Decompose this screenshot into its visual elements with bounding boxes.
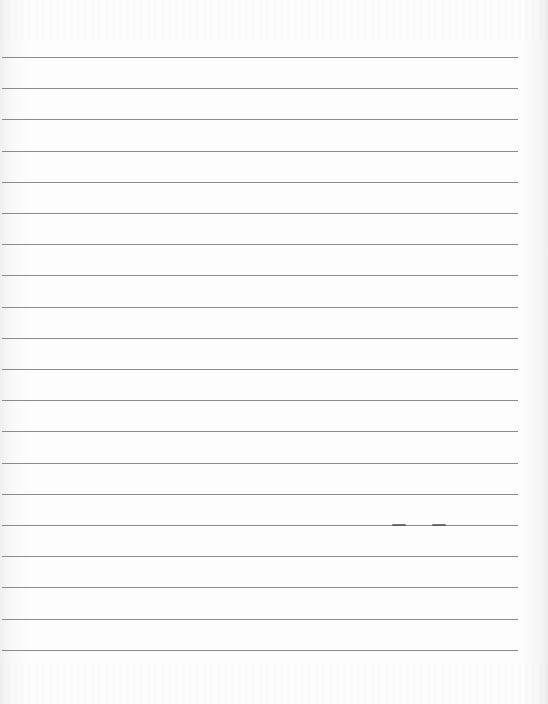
ruled-line — [2, 400, 518, 401]
ruled-line — [2, 182, 518, 183]
lined-paper — [0, 0, 548, 704]
ruled-line — [2, 307, 518, 308]
ruled-line — [2, 650, 518, 651]
ruled-line — [2, 57, 518, 58]
ruled-line — [2, 275, 518, 276]
ruled-line — [2, 556, 518, 557]
ruled-line — [2, 213, 518, 214]
bleed-through-top — [0, 0, 548, 40]
ruled-line — [2, 587, 518, 588]
ruled-line — [2, 151, 518, 152]
ruled-line — [2, 244, 518, 245]
ruled-line — [2, 431, 518, 432]
ink-smudge-right — [432, 524, 446, 526]
ruled-line — [2, 494, 518, 495]
ruled-line — [2, 338, 518, 339]
ruled-line — [2, 619, 518, 620]
ruled-line — [2, 369, 518, 370]
bleed-through-bottom — [0, 664, 548, 704]
ink-smudge-left — [392, 524, 406, 526]
ruled-line — [2, 119, 518, 120]
ruled-line — [2, 463, 518, 464]
ruled-line — [2, 88, 518, 89]
